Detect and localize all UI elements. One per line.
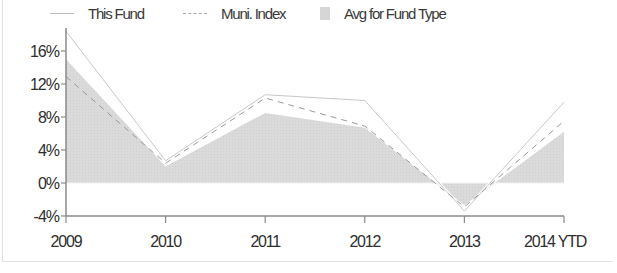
- y-tick-label: 4%: [38, 142, 60, 159]
- x-tick-label: 2014 YTD: [524, 233, 587, 250]
- plot-area: 16%12%8%4%0%-4% 200920102011201220132014…: [0, 0, 617, 273]
- x-tick-label: 2010: [150, 233, 182, 250]
- y-tick-label: -4%: [34, 208, 60, 225]
- y-tick-label: 16%: [30, 43, 60, 60]
- x-tick-label: 2012: [349, 233, 381, 250]
- y-axis-ticks: 16%12%8%4%0%-4%: [30, 43, 66, 225]
- x-tick-label: 2009: [51, 233, 83, 250]
- y-tick-label: 12%: [30, 76, 60, 93]
- x-tick-label: 2013: [449, 233, 481, 250]
- y-tick-label: 0%: [38, 175, 60, 192]
- x-tick-label: 2011: [250, 233, 281, 250]
- x-axis-ticks: 200920102011201220132014 YTD: [51, 216, 587, 250]
- y-tick-label: 8%: [38, 109, 60, 126]
